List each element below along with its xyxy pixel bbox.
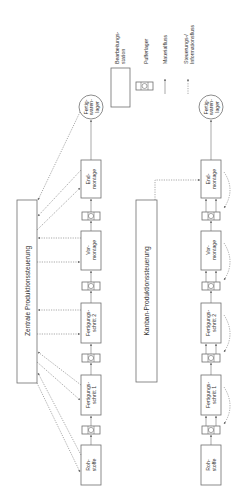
station-label-2: stoffe (91, 459, 97, 472)
central-store-label-3: lager (94, 101, 100, 113)
legend-material-label: Materialfluss (162, 34, 168, 64)
kanban-buffer (202, 354, 220, 362)
station-label-2: stoffe (211, 459, 217, 472)
central-buffer (82, 212, 100, 220)
kanban-buffer (202, 426, 220, 434)
station-label-2: montage (91, 240, 97, 260)
station-label-2: schritt 2 (211, 314, 217, 332)
legend-station-symbol (111, 68, 130, 107)
legend-buffer-label: Pufferlager (143, 38, 149, 64)
station-label-2: schritt 1 (91, 386, 97, 404)
kanban-buffer (202, 212, 220, 220)
central-buffer (82, 426, 100, 434)
central-control-title: Zentrale Produktionssteuerung (24, 246, 32, 337)
kanban-info-line (155, 180, 200, 200)
production-control-diagram: Bearbeitungs- station Pufferlager Materi… (0, 0, 245, 497)
legend-station-label-2: station (120, 49, 126, 64)
station-label-2: montage (211, 169, 217, 189)
kanban-control-title: Kanban-Produktionssteuerung (143, 246, 151, 335)
central-info-flow (37, 112, 81, 472)
legend-info-label-2: Informationsfluss (189, 24, 195, 64)
station-label-2: schritt 1 (211, 386, 217, 404)
kanban-pull-signals (224, 172, 230, 424)
station-label-2: montage (91, 169, 97, 189)
central-buffer (82, 282, 100, 290)
station-label-2: montage (211, 240, 217, 260)
central-buffer (82, 354, 100, 362)
central-control-section: Zentrale Produktionssteuerung Fertig- wa… (17, 95, 103, 485)
kanban-store-label-3: lager (214, 101, 220, 113)
legend-buffer-symbol (136, 82, 153, 90)
kanban-control-section: Kanban-Produktionssteuerung Fertig- ware… (136, 95, 230, 485)
legend: Bearbeitungs- station Pufferlager Materi… (111, 24, 195, 107)
station-label-2: schritt 2 (91, 314, 97, 332)
kanban-buffer (202, 282, 220, 290)
